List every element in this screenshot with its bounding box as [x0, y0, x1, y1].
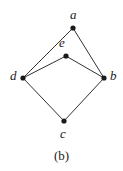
graph-edge-d-c: [23, 78, 64, 121]
graph-node-e: [63, 53, 68, 58]
figure-caption: (b): [0, 148, 123, 163]
graph-edge-a-b: [73, 28, 104, 78]
graph-node-c: [61, 118, 66, 123]
graph-edge-b-c: [64, 78, 104, 121]
figure-panel: aedbc (b): [0, 0, 123, 171]
node-label-b: b: [110, 69, 117, 82]
graph-canvas: [0, 0, 123, 171]
node-label-d: d: [10, 69, 17, 82]
graph-node-a: [70, 25, 75, 30]
graph-node-d: [20, 75, 25, 80]
node-label-c: c: [60, 127, 66, 140]
node-label-e: e: [59, 36, 65, 49]
graph-edge-e-d: [23, 56, 66, 78]
graph-edge-e-b: [66, 56, 104, 78]
node-label-a: a: [70, 8, 77, 21]
graph-node-b: [101, 75, 106, 80]
graph-edge-a-d: [23, 28, 73, 78]
